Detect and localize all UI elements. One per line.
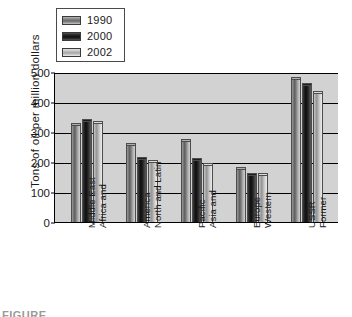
x-axis-label-line: Pacific	[196, 190, 207, 228]
bar-1990	[236, 167, 246, 222]
x-axis-label: Africa andMiddle East	[68, 226, 104, 308]
legend-label: 1990	[87, 15, 112, 26]
x-axis-label: Asia andPacific	[178, 226, 214, 308]
bar-1990	[71, 123, 81, 222]
x-axis-label-line: Europe	[251, 192, 262, 228]
legend-label: 2002	[87, 47, 112, 58]
x-axis-label: WesternEurope	[233, 226, 269, 308]
legend-item: 2002	[62, 45, 124, 60]
x-axis-label: North and LatinAmerica	[123, 226, 159, 308]
x-axis-label-line: Asia and	[207, 190, 218, 228]
swatch-1990-icon	[62, 16, 81, 25]
x-axis-label-line: USSR	[306, 197, 317, 228]
bar-top-cap	[192, 158, 202, 161]
swatch-2000-icon	[62, 32, 81, 41]
x-axis-labels: Africa andMiddle EastNorth and LatinAmer…	[54, 226, 338, 308]
bar-1990	[181, 139, 191, 222]
x-axis-label-line: Former	[317, 197, 328, 228]
y-tick-label: 300	[31, 127, 50, 139]
bar-top-cap	[302, 83, 312, 86]
legend-label: 2000	[87, 31, 112, 42]
y-tick-label: 0	[44, 217, 50, 229]
legend-item: 1990	[62, 13, 124, 28]
bar-top-cap	[258, 173, 268, 176]
bar-top-cap	[93, 121, 103, 124]
bar-top-cap	[203, 163, 213, 166]
bar-top-cap	[126, 143, 136, 146]
x-axis-label-line: Western	[262, 192, 273, 228]
y-axis-title: Tons of oil per million dollars	[29, 11, 41, 211]
bar-top-cap	[71, 123, 81, 126]
figure-caption: FIGURE	[2, 310, 47, 317]
bar-1990	[291, 77, 301, 222]
x-axis-label: FormerUSSR	[288, 226, 324, 308]
x-axis-label-line: Middle East	[86, 177, 97, 228]
bar-1990	[126, 143, 136, 223]
y-tick-label: 200	[31, 157, 50, 169]
bar-top-cap	[181, 139, 191, 142]
y-tick-label: 100	[31, 187, 50, 199]
x-axis-label-line: North and Latin	[152, 162, 163, 228]
bar-top-cap	[82, 119, 92, 122]
bar-top-cap	[313, 91, 323, 94]
bar-top-cap	[247, 173, 257, 176]
legend-item: 2000	[62, 29, 124, 44]
y-tick-label: 500	[31, 67, 50, 79]
bar-top-cap	[236, 167, 246, 170]
x-axis-label-line: Africa and	[97, 177, 108, 228]
y-tick-label: 400	[31, 97, 50, 109]
bar-top-cap	[291, 77, 301, 80]
x-axis-label-line: America	[141, 162, 152, 228]
chart-legend: 1990 2000 2002	[56, 8, 125, 62]
y-tick-mark	[51, 223, 55, 224]
swatch-2002-icon	[62, 48, 81, 57]
bar-top-cap	[137, 157, 147, 160]
